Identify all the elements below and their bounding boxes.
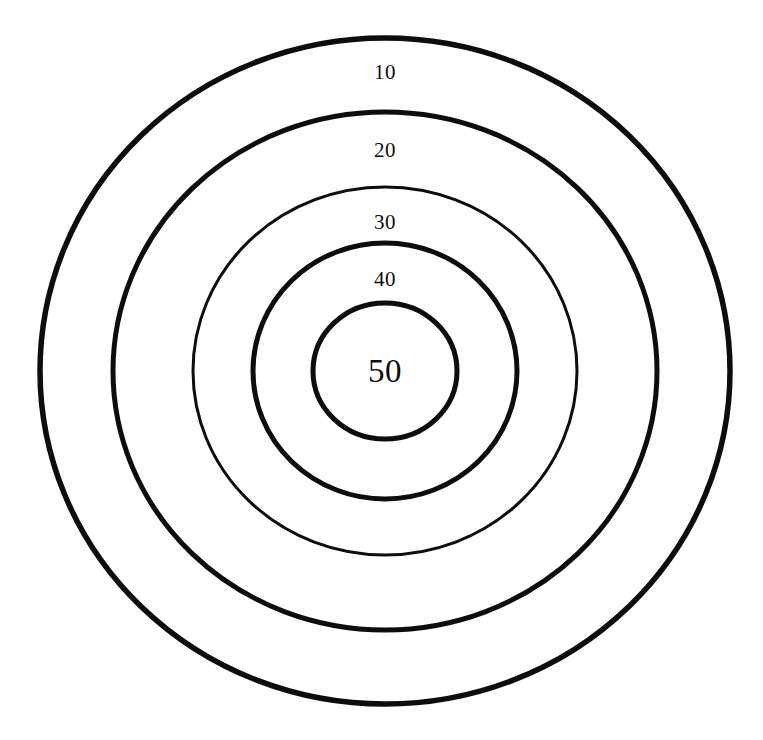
ring-label-50: 50 [368, 355, 402, 388]
ring-label-10: 10 [374, 62, 396, 83]
concentric-target-figure: 10 20 30 40 50 [0, 0, 763, 740]
ring-label-30: 30 [374, 212, 396, 233]
ring-label-40: 40 [374, 269, 396, 290]
ring-label-20: 20 [374, 140, 396, 161]
